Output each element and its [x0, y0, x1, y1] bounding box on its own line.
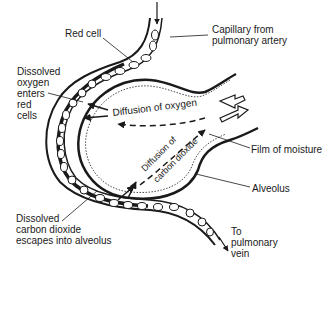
- label-film-of-moisture: Film of moisture: [251, 144, 322, 155]
- label-capillary-from-pulmonary-artery: Capillary from pulmonary artery: [212, 24, 287, 46]
- label-dissolved-carbon-dioxide: Dissolved carbon dioxide escapes into al…: [16, 213, 112, 246]
- leader-alveolus: [196, 174, 250, 187]
- label-alveolus: Alveolus: [252, 183, 290, 194]
- label-red-cell: Red cell: [65, 28, 101, 39]
- alveolus-diagram: Diffusion of oxygen Diffusion of carbon …: [0, 0, 336, 331]
- leader-capillary: [170, 35, 208, 37]
- diagram-artwork: Diffusion of oxygen Diffusion of carbon …: [0, 0, 336, 331]
- leader-red-cell: [103, 38, 133, 62]
- air-flow-arrows: [220, 95, 248, 122]
- diffusion-oxygen-label: Diffusion of oxygen: [112, 97, 198, 118]
- air-out-arrow: [220, 106, 248, 122]
- outflow-arrow: [219, 237, 228, 251]
- label-to-pulmonary-vein: To pulmonary vein: [231, 226, 278, 259]
- label-dissolved-oxygen: Dissolved oxygen enters red cells: [17, 66, 60, 121]
- leader-lines: [48, 35, 250, 221]
- air-in-arrow: [220, 95, 245, 108]
